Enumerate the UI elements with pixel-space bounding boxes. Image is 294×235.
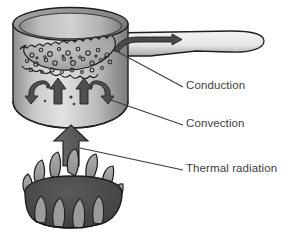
label-conduction: Conduction [186,79,245,91]
pan-handle [112,31,264,56]
label-thermal-radiation: Thermal radiation [186,162,277,174]
gas-burner-flame [23,149,123,228]
label-convection: Convection [186,117,245,129]
heat-transfer-diagram [0,0,294,235]
